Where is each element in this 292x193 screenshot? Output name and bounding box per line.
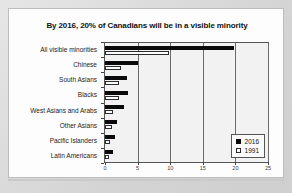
bar-2016 bbox=[105, 91, 128, 95]
bar-group bbox=[105, 103, 268, 118]
y-axis-label: Latin Americans bbox=[9, 148, 101, 163]
legend-item: 1991 bbox=[236, 147, 259, 154]
bar-2016 bbox=[105, 120, 117, 124]
bar-1991 bbox=[105, 96, 119, 100]
bar-2016 bbox=[105, 46, 234, 50]
y-axis-tick bbox=[101, 57, 104, 58]
chart-title: By 2016, 20% of Canadians will be in a v… bbox=[9, 21, 285, 30]
bar-1991 bbox=[105, 81, 119, 85]
bar-1991 bbox=[105, 140, 110, 144]
bar-1991 bbox=[105, 125, 112, 129]
bar-group bbox=[105, 117, 268, 132]
filled-square-icon bbox=[236, 139, 241, 144]
x-axis-tick-label: 5 bbox=[136, 165, 139, 171]
y-axis-tick bbox=[101, 133, 104, 134]
y-axis-label: West Asians and Arabs bbox=[9, 103, 101, 118]
bar-2016 bbox=[105, 150, 113, 154]
bar-group bbox=[105, 88, 268, 103]
bar-2016 bbox=[105, 61, 138, 65]
legend-item-label: 1991 bbox=[245, 147, 259, 154]
y-axis-label: Other Asians bbox=[9, 118, 101, 133]
bar-2016 bbox=[105, 135, 115, 139]
y-axis-label: All visible minorities bbox=[9, 42, 101, 57]
bar-1991 bbox=[105, 51, 169, 55]
y-axis-label: Pacific Islanders bbox=[9, 133, 101, 148]
y-axis-tick bbox=[101, 148, 104, 149]
bar-1991 bbox=[105, 66, 121, 70]
slide-root: By 2016, 20% of Canadians will be in a v… bbox=[0, 0, 292, 193]
slide-panel: By 2016, 20% of Canadians will be in a v… bbox=[8, 8, 284, 178]
x-axis-tick-label: 25 bbox=[265, 165, 271, 171]
bar-2016 bbox=[105, 105, 124, 109]
x-axis-tick-label: 15 bbox=[200, 165, 206, 171]
y-axis-tick bbox=[101, 42, 104, 43]
x-axis-labels: 0510152025 bbox=[104, 165, 269, 175]
legend-item-label: 2016 bbox=[245, 138, 259, 145]
y-axis-tick bbox=[101, 87, 104, 88]
y-axis-tick bbox=[101, 163, 104, 164]
hollow-square-icon bbox=[236, 148, 241, 153]
y-axis-tick bbox=[101, 118, 104, 119]
x-axis-tick-label: 0 bbox=[103, 165, 106, 171]
bar-group bbox=[105, 73, 268, 88]
y-axis-label: Blacks bbox=[9, 87, 101, 102]
panel-edge bbox=[8, 179, 284, 181]
gridline bbox=[268, 43, 269, 162]
bar-group bbox=[105, 43, 268, 58]
x-axis-tick-label: 20 bbox=[232, 165, 238, 171]
bar-1991 bbox=[105, 110, 113, 114]
bar-group bbox=[105, 58, 268, 73]
legend-item: 2016 bbox=[236, 138, 259, 145]
chart-legend: 2016 1991 bbox=[231, 134, 265, 158]
y-axis-tick bbox=[101, 72, 104, 73]
y-axis-labels: All visible minorities Chinese South Asi… bbox=[9, 42, 101, 163]
bar-2016 bbox=[105, 76, 127, 80]
y-axis-label: South Asians bbox=[9, 72, 101, 87]
y-axis-tick bbox=[101, 103, 104, 104]
y-axis-label: Chinese bbox=[9, 57, 101, 72]
bar-1991 bbox=[105, 155, 109, 159]
plot-area: 2016 1991 bbox=[104, 42, 269, 163]
x-axis-tick-label: 10 bbox=[167, 165, 173, 171]
